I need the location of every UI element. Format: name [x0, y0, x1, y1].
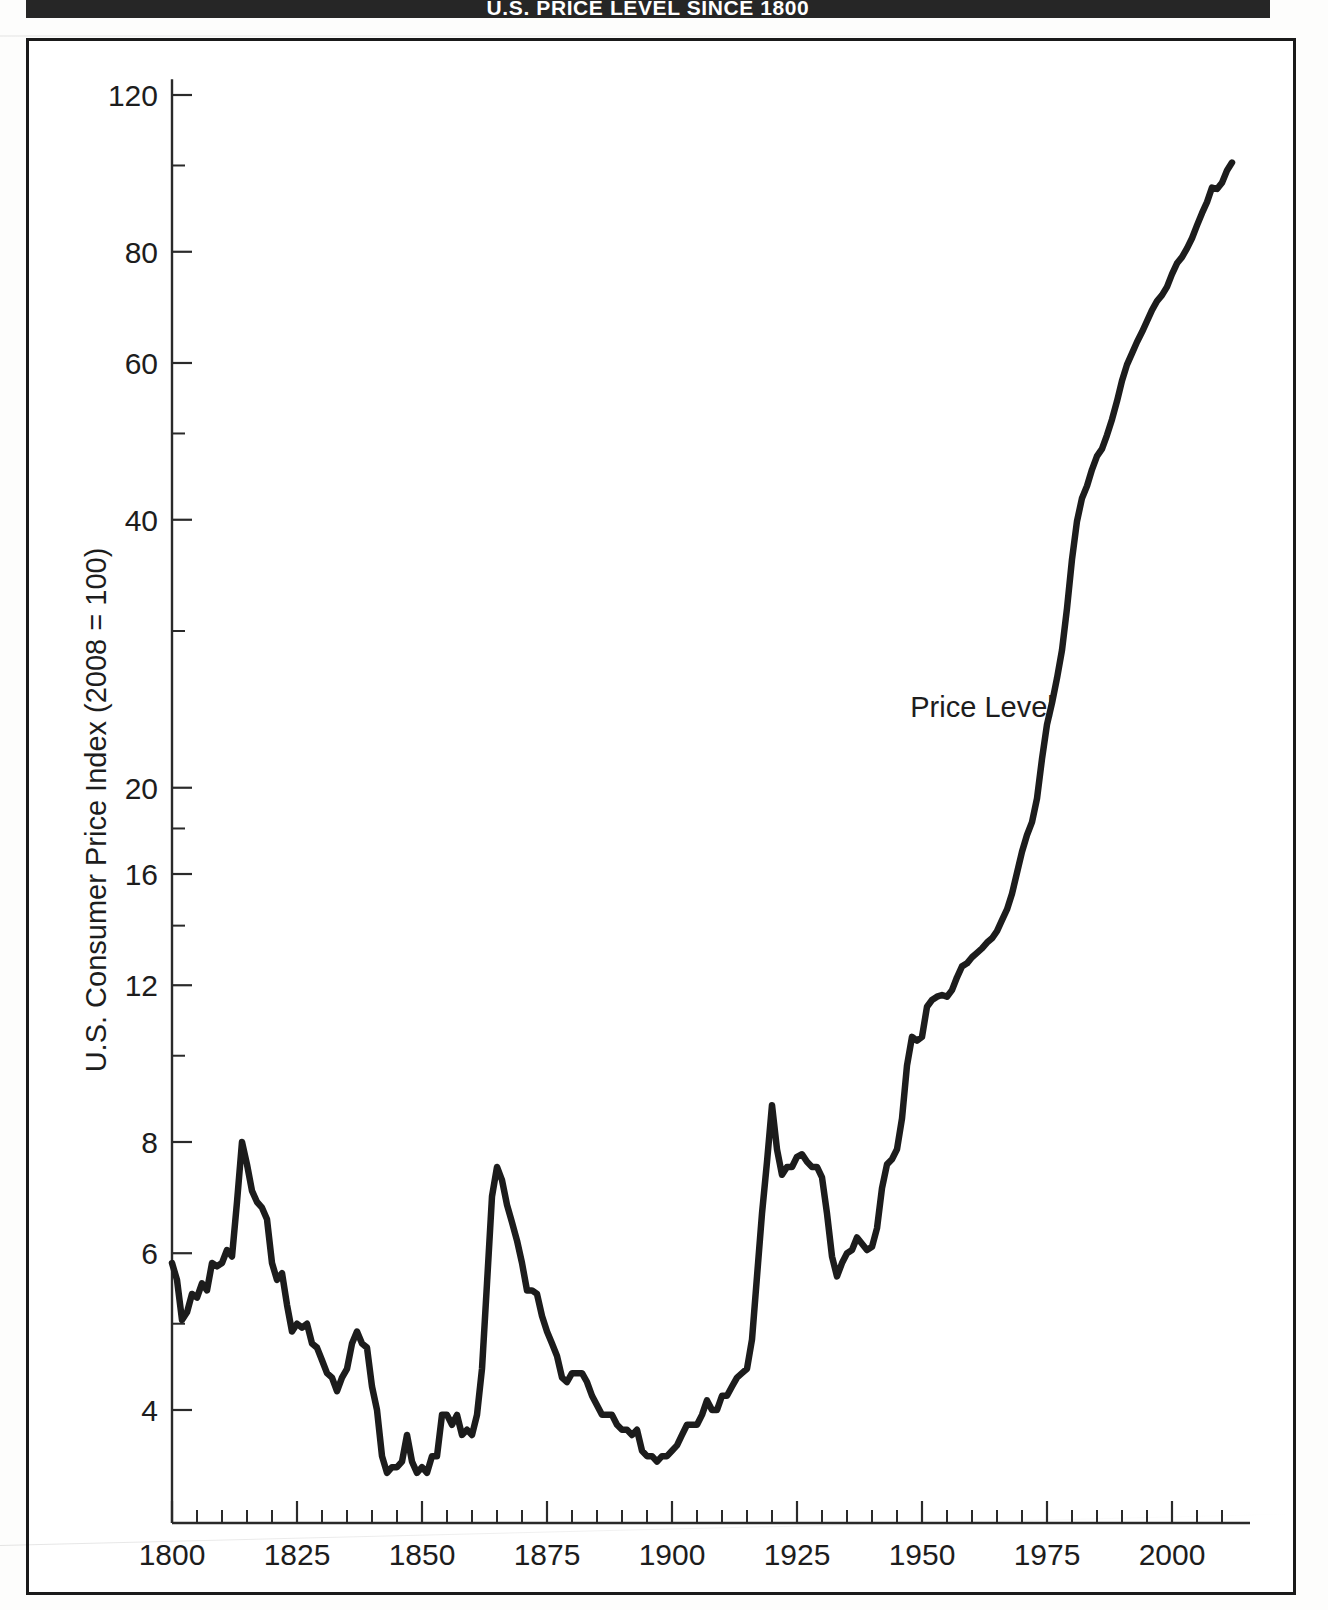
x-tick-label: 1900 [639, 1538, 706, 1571]
x-tick-label: 1925 [764, 1538, 831, 1571]
x-tick-label: 1800 [139, 1538, 206, 1571]
y-tick-label: 120 [108, 79, 158, 112]
y-tick-label: 80 [125, 236, 158, 269]
y-tick-label: 4 [141, 1394, 158, 1427]
x-tick-label: 1950 [889, 1538, 956, 1571]
y-tick-label: 40 [125, 504, 158, 537]
x-tick-label: 1850 [389, 1538, 456, 1571]
price-level-line [172, 163, 1232, 1473]
x-tick-label: 1975 [1014, 1538, 1081, 1571]
y-tick-label: 8 [141, 1126, 158, 1159]
x-tick-label: 2000 [1139, 1538, 1206, 1571]
x-tick-label: 1825 [264, 1538, 331, 1571]
x-tick-label: 1875 [514, 1538, 581, 1571]
y-tick-label: 6 [141, 1237, 158, 1270]
y-tick-label: 60 [125, 347, 158, 380]
y-tick-label: 20 [125, 772, 158, 805]
y-axis-title: U.S. Consumer Price Index (2008 = 100) [80, 548, 112, 1073]
y-tick-label: 16 [125, 858, 158, 891]
price-level-chart: 468121620406080120 180018251850187519001… [0, 0, 1328, 1610]
y-tick-label: 12 [125, 969, 158, 1002]
y-axis-ticks [172, 95, 192, 1410]
x-axis-ticks [172, 1501, 1222, 1523]
y-tick-labels: 468121620406080120 [108, 79, 158, 1427]
x-tick-labels: 180018251850187519001925195019752000 [139, 1538, 1206, 1571]
series-annotation: Price Level [910, 691, 1053, 723]
